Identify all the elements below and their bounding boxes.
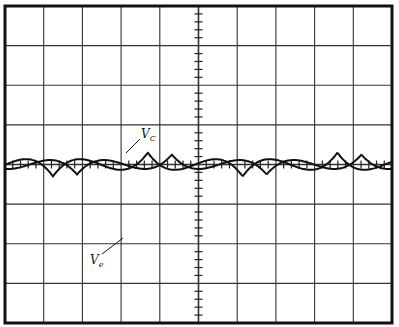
- oscilloscope-chart: [0, 0, 399, 327]
- label-ve: Ve: [90, 253, 103, 269]
- label-vc-main: V: [141, 127, 150, 141]
- label-vc: VC: [141, 127, 156, 143]
- ve-leader-line: [102, 238, 123, 254]
- label-vc-sub: C: [150, 134, 156, 143]
- vc-leader-line: [126, 139, 140, 153]
- label-ve-sub: e: [99, 260, 104, 269]
- label-ve-main: V: [90, 253, 99, 267]
